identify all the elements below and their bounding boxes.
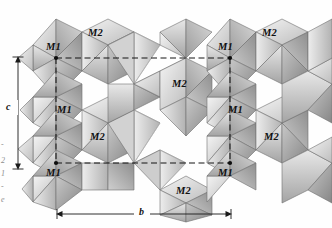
- polyhedra-svg: [0, 0, 332, 228]
- label-m2-bottom-center: M2: [176, 185, 191, 196]
- figure-canvas: M1 M2 M1 M2 M1 M1 M2 M2 M1 M2 M1 M2 c b …: [0, 0, 332, 228]
- label-m1-bottom-right: M1: [218, 167, 233, 178]
- wedge: [160, 19, 212, 58]
- label-m2-mid-right: M2: [264, 131, 279, 142]
- label-m2-top-right: M2: [262, 27, 277, 38]
- margin-fragment: 1: [1, 169, 5, 178]
- margin-fragment: e: [1, 195, 5, 204]
- wedge: [82, 163, 134, 190]
- label-m1-mid-left: M1: [57, 104, 72, 115]
- label-c-axis: c: [6, 101, 11, 112]
- label-m1-mid-right: M1: [228, 104, 243, 115]
- octahedron-m2-bottom: [160, 176, 212, 222]
- margin-fragment: -: [1, 140, 4, 149]
- label-m1-bottom-left: M1: [46, 167, 61, 178]
- margin-fragment: -: [1, 182, 4, 191]
- label-m2-mid-left: M2: [90, 131, 105, 142]
- wedge: [18, 45, 33, 202]
- label-m2-top-left: M2: [88, 27, 103, 38]
- label-m1-top-left: M1: [46, 41, 61, 52]
- margin-fragment: 2: [1, 156, 5, 165]
- label-b-axis: b: [139, 206, 144, 217]
- octahedron-m2-center: [160, 58, 212, 136]
- label-m2-center: M2: [172, 78, 187, 89]
- label-m1-top-right: M1: [218, 41, 233, 52]
- octahedra-group: [18, 19, 332, 222]
